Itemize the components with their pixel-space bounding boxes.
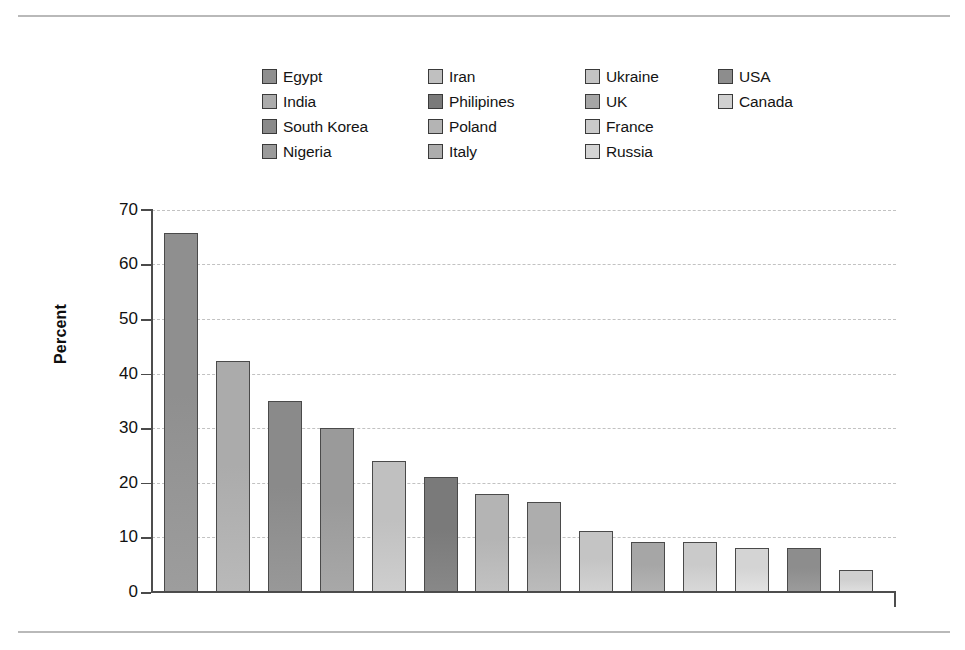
bar[interactable] — [320, 428, 354, 592]
gridline — [152, 319, 896, 320]
bar[interactable] — [475, 494, 509, 592]
bar[interactable] — [164, 233, 198, 592]
y-axis-title: Percent — [52, 304, 70, 364]
gridline — [152, 537, 896, 538]
y-axis-tickmark — [141, 537, 151, 539]
bar[interactable] — [527, 502, 561, 592]
x-axis-line — [151, 591, 896, 593]
y-axis-tick-label: 30 — [96, 419, 138, 436]
y-axis-tick-label: 0 — [96, 583, 138, 600]
bar[interactable] — [839, 570, 873, 592]
bar[interactable] — [372, 461, 406, 592]
y-axis-tick-labels: 010203040506070 — [96, 0, 138, 650]
bar[interactable] — [735, 548, 769, 592]
y-axis-tick-label: 60 — [96, 255, 138, 272]
gridline — [152, 210, 896, 211]
y-axis-line — [151, 209, 153, 593]
bar[interactable] — [216, 361, 250, 592]
x-axis-end-tick — [894, 591, 896, 607]
y-axis-tick-label: 20 — [96, 474, 138, 491]
bar[interactable] — [268, 401, 302, 592]
bar[interactable] — [579, 531, 613, 592]
bar[interactable] — [631, 542, 665, 592]
bar[interactable] — [424, 477, 458, 592]
plot-area: Percent 010203040506070 — [0, 0, 965, 650]
y-axis-tick-label: 10 — [96, 528, 138, 545]
y-axis-tickmark — [141, 483, 151, 485]
y-axis-tickmark — [141, 374, 151, 376]
bar[interactable] — [787, 548, 821, 592]
y-axis-tickmark — [141, 264, 151, 266]
gridline — [152, 374, 896, 375]
y-axis-tickmark — [141, 428, 151, 430]
gridline — [152, 428, 896, 429]
bar[interactable] — [683, 542, 717, 592]
y-axis-tick-label: 40 — [96, 365, 138, 382]
figure-container: EgyptIndiaSouth KoreaNigeriaIranPhilipin… — [0, 0, 965, 650]
y-axis-top-tick — [141, 209, 152, 211]
y-axis-tick-label: 70 — [96, 201, 138, 218]
y-axis-tickmark — [141, 319, 151, 321]
gridline — [152, 483, 896, 484]
y-axis-tickmark — [141, 592, 151, 594]
y-axis-tick-label: 50 — [96, 310, 138, 327]
gridline — [152, 264, 896, 265]
